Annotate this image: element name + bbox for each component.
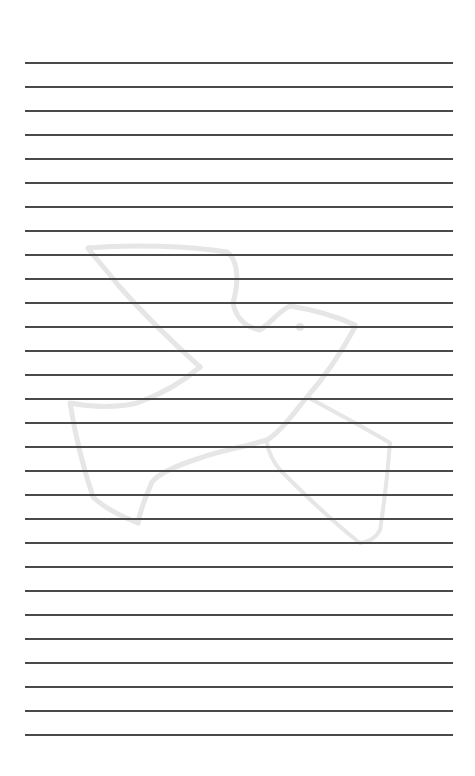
ruled-line bbox=[25, 542, 453, 544]
ruled-line bbox=[25, 638, 453, 640]
ruled-line bbox=[25, 62, 453, 64]
ruled-line bbox=[25, 254, 453, 256]
ruled-line bbox=[25, 518, 453, 520]
ruled-line bbox=[25, 86, 453, 88]
ruled-line bbox=[25, 278, 453, 280]
ruled-line bbox=[25, 230, 453, 232]
ruled-line bbox=[25, 710, 453, 712]
dove-icon bbox=[0, 0, 475, 776]
ruled-line bbox=[25, 566, 453, 568]
ruled-line bbox=[25, 158, 453, 160]
ruled-line bbox=[25, 470, 453, 472]
ruled-line bbox=[25, 350, 453, 352]
ruled-line bbox=[25, 110, 453, 112]
ruled-line bbox=[25, 614, 453, 616]
ruled-line bbox=[25, 422, 453, 424]
lined-page bbox=[0, 0, 475, 776]
ruled-line bbox=[25, 134, 453, 136]
ruled-line bbox=[25, 206, 453, 208]
ruled-line bbox=[25, 446, 453, 448]
ruled-line bbox=[25, 662, 453, 664]
ruled-line bbox=[25, 494, 453, 496]
ruled-line bbox=[25, 590, 453, 592]
ruled-line bbox=[25, 302, 453, 304]
ruled-line bbox=[25, 734, 453, 736]
ruled-line bbox=[25, 326, 453, 328]
ruled-line bbox=[25, 398, 453, 400]
ruled-line bbox=[25, 374, 453, 376]
ruled-line bbox=[25, 686, 453, 688]
ruled-line bbox=[25, 182, 453, 184]
